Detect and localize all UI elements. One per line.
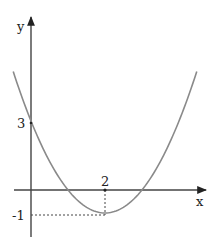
- y-intercept-label: 3: [17, 117, 25, 130]
- y-axis-label: y: [17, 20, 24, 33]
- x-axis-label: x: [196, 195, 203, 208]
- parabola-graph: [0, 0, 219, 251]
- x-vertex-label: 2: [101, 175, 109, 188]
- y-vertex-label: -1: [12, 209, 25, 222]
- y-tick-point: [30, 122, 33, 125]
